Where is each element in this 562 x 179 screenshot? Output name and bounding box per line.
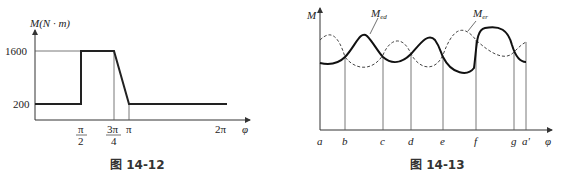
svg-text:a: a <box>317 135 323 147</box>
x-axis-label: φ <box>545 135 551 147</box>
svg-text:2π: 2π <box>215 123 227 135</box>
svg-text:d: d <box>408 135 414 147</box>
y-axis-label: M(N · m) <box>29 17 70 30</box>
svg-text:π: π <box>126 123 132 135</box>
med-curve <box>320 27 526 73</box>
y-tick-200: 200 <box>13 98 30 110</box>
svg-text:3π: 3π <box>107 123 119 135</box>
med-label: Med <box>370 7 387 21</box>
chart-14-13: M Med Mer a b c d e f g a' φ <box>306 7 552 147</box>
svg-text:2: 2 <box>78 135 84 147</box>
chart-14-12: M(N · m) 1600 200 π 2 3π 4 π 2π φ <box>5 17 250 147</box>
svg-text:c: c <box>380 135 385 147</box>
svg-text:e: e <box>440 135 445 147</box>
x-axis-label: φ <box>242 123 248 135</box>
svg-text:4: 4 <box>111 135 117 147</box>
y-tick-1600: 1600 <box>5 45 28 57</box>
svg-text:a': a' <box>522 135 531 147</box>
mer-label: Mer <box>472 7 488 21</box>
y-axis-label: M <box>306 9 317 21</box>
caption-14-13: 图 14-13 <box>410 155 465 172</box>
figures-canvas: M(N · m) 1600 200 π 2 3π 4 π 2π φ M Med … <box>0 0 562 179</box>
svg-text:g: g <box>511 135 517 147</box>
svg-text:f: f <box>474 135 479 147</box>
moment-curve <box>35 51 227 104</box>
svg-text:b: b <box>342 135 348 147</box>
caption-14-12: 图 14-12 <box>110 155 165 172</box>
svg-text:π: π <box>78 123 84 135</box>
